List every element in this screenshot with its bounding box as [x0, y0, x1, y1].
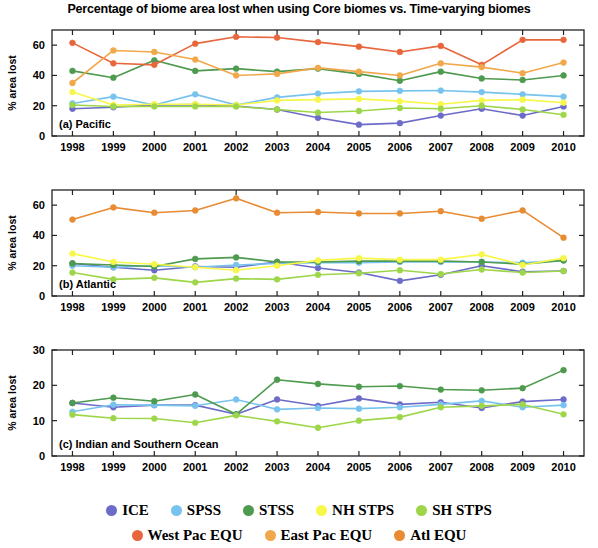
data-point [315, 110, 321, 116]
x-tick-label: 1999 [101, 461, 125, 473]
x-tick-label: 2007 [429, 301, 453, 313]
figure-root: Percentage of biome area lost when using… [0, 0, 598, 548]
data-point [561, 411, 567, 417]
y-axis-title: % area lost [6, 215, 18, 271]
data-point [315, 209, 321, 215]
legend-label: West Pac EQU [148, 527, 243, 544]
x-tick-label: 2004 [306, 301, 331, 313]
data-point [233, 276, 239, 282]
series-atl-equ [70, 195, 567, 240]
data-point [151, 261, 157, 267]
data-point [438, 69, 444, 75]
x-tick-label: 2003 [265, 141, 289, 153]
legend-entry-west-pac-equ[interactable]: West Pac EQU [132, 527, 243, 544]
data-point [233, 66, 239, 72]
panel-pacific: 0204060199819992000200120022003200420052… [0, 18, 598, 168]
legend-entry-ice[interactable]: ICE [106, 502, 149, 519]
legend-entry-atl-equ[interactable]: Atl EQU [394, 527, 466, 544]
panel-plot-c: 0102030199819992000200120022003200420052… [0, 338, 598, 488]
data-point [192, 41, 198, 47]
x-tick-label: 2009 [510, 301, 534, 313]
data-point [70, 251, 76, 257]
data-point [70, 80, 76, 86]
data-point [520, 70, 526, 76]
data-point [561, 94, 567, 100]
data-point [192, 57, 198, 63]
y-tick-label: 30 [33, 344, 45, 356]
data-point [397, 257, 403, 263]
x-tick-label: 2003 [265, 461, 289, 473]
data-point [397, 49, 403, 55]
panel-indian-southern: 0102030199819992000200120022003200420052… [0, 338, 598, 488]
data-point [479, 267, 485, 273]
data-point [151, 275, 157, 281]
data-point [274, 71, 280, 77]
data-point [561, 397, 567, 403]
data-point [479, 259, 485, 265]
data-point [70, 412, 76, 418]
panel-title: (a) Pacific [59, 118, 111, 130]
data-point [438, 60, 444, 66]
legend-entry-nh-stps[interactable]: NH STPS [316, 502, 394, 519]
data-point [233, 412, 239, 418]
data-point [192, 403, 198, 409]
legend-marker-icon [106, 505, 117, 516]
data-point [438, 106, 444, 112]
data-point [233, 262, 239, 268]
data-point [561, 367, 567, 373]
series-group [70, 367, 567, 430]
y-tick-label: 0 [39, 130, 45, 142]
data-point [479, 64, 485, 70]
data-point [151, 49, 157, 55]
data-point [479, 387, 485, 393]
y-tick-label: 10 [33, 415, 45, 427]
x-tick-label: 2008 [469, 461, 493, 473]
data-point [397, 383, 403, 389]
data-point [356, 44, 362, 50]
x-tick-label: 2008 [469, 141, 493, 153]
data-point [233, 73, 239, 79]
data-point [561, 37, 567, 43]
legend-entry-stss[interactable]: STSS [243, 502, 294, 519]
y-tick-label: 0 [39, 290, 45, 302]
panel-plot-b: 0204060199819992000200120022003200420052… [0, 178, 598, 328]
y-tick-label: 40 [33, 69, 45, 81]
legend-entry-east-pac-equ[interactable]: East Pac EQU [265, 527, 373, 544]
data-point [233, 397, 239, 403]
data-point [438, 113, 444, 119]
data-point [192, 392, 198, 398]
x-tick-label: 2006 [388, 141, 412, 153]
data-point [561, 402, 567, 408]
panel-title: (c) Indian and Southern Ocean [59, 438, 219, 450]
data-point [397, 105, 403, 111]
y-axis-title: % area lost [6, 375, 18, 431]
x-tick-label: 2006 [388, 461, 412, 473]
x-tick-label: 2001 [183, 141, 207, 153]
data-point [356, 108, 362, 114]
data-point [315, 97, 321, 103]
data-point [192, 208, 198, 214]
data-point [70, 270, 76, 276]
legend-label: ICE [122, 502, 149, 519]
legend-marker-icon [316, 505, 327, 516]
data-point [356, 122, 362, 128]
data-point [110, 48, 116, 54]
data-point [110, 60, 116, 66]
data-point [233, 254, 239, 260]
data-point [397, 98, 403, 104]
data-point [520, 97, 526, 103]
data-point [151, 398, 157, 404]
x-tick-label: 2009 [510, 461, 534, 473]
data-point [561, 235, 567, 241]
legend-entry-spss[interactable]: SPSS [171, 502, 221, 519]
legend-marker-icon [416, 505, 427, 516]
data-point [70, 217, 76, 223]
data-point [151, 104, 157, 110]
data-point [561, 112, 567, 118]
data-point [561, 73, 567, 79]
data-point [233, 104, 239, 110]
data-point [315, 258, 321, 264]
data-point [315, 91, 321, 97]
legend-entry-sh-stps[interactable]: SH STPS [416, 502, 492, 519]
data-point [520, 37, 526, 43]
